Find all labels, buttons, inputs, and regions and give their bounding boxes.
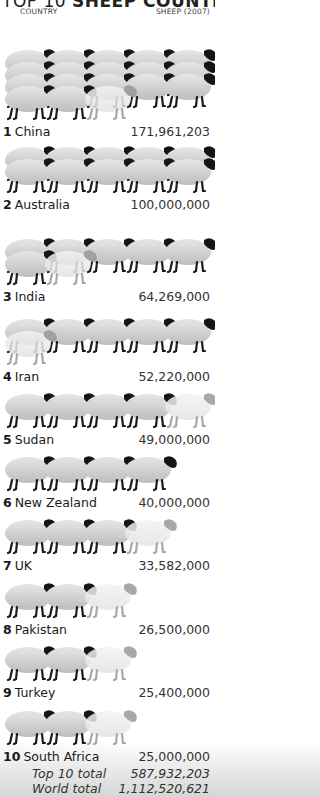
sheep-flock [4, 446, 214, 495]
sheep-flock [4, 572, 214, 622]
sheep-icon [164, 390, 215, 432]
rank-number: 7 [3, 558, 12, 573]
sheep-flock [4, 211, 214, 289]
top10-total-value: 587,932,203 [130, 766, 210, 781]
country-column-header: COUNTRY [20, 7, 58, 16]
sheep-flock [4, 509, 214, 558]
sheep-count-value: 100,000,000 [130, 197, 210, 212]
country-name: South Africa [23, 749, 99, 764]
sheep-count-value: 171,961,203 [130, 124, 210, 139]
rank-number: 9 [3, 685, 12, 700]
country-name: Australia [15, 197, 70, 212]
country-label: 8Pakistan [3, 622, 67, 637]
rank-number: 4 [3, 369, 12, 384]
sheep-count-value: 26,500,000 [138, 622, 210, 637]
sheep-flock [4, 636, 214, 685]
country-name: UK [15, 558, 32, 573]
sheep-flock [4, 303, 214, 369]
top10-total-label: Top 10 total [32, 766, 106, 781]
sheep-flock [4, 699, 214, 749]
sheep-flock [4, 138, 214, 197]
rank-number: 8 [3, 622, 12, 637]
sheep-icon [84, 82, 146, 124]
sheep-count-value: 49,000,000 [138, 432, 210, 447]
rank-number: 3 [3, 289, 12, 304]
sheep-count-value: 33,582,000 [138, 558, 210, 573]
country-label: 1China [3, 124, 50, 139]
world-total-label: World total [32, 781, 101, 796]
sheep-icon [164, 70, 215, 112]
sheep-icon [164, 155, 215, 197]
sheep-count-value: 25,000,000 [138, 749, 210, 764]
country-name: China [15, 124, 51, 139]
rank-number: 5 [3, 432, 12, 447]
sheep-icon [164, 235, 215, 277]
country-name: New Zealand [15, 495, 97, 510]
country-label: 9Turkey [3, 685, 55, 700]
country-label: 2Australia [3, 197, 70, 212]
sheep-icon [4, 327, 66, 369]
rank-number: 1 [3, 124, 12, 139]
country-label: 4Iran [3, 369, 39, 384]
sheep-icon [124, 453, 186, 495]
sheep-count-value: 25,400,000 [138, 685, 210, 700]
sheep-count-value: 52,220,000 [138, 369, 210, 384]
country-name: India [15, 289, 46, 304]
country-name: Pakistan [15, 622, 67, 637]
country-name: Sudan [15, 432, 54, 447]
country-label: 10South Africa [3, 749, 99, 764]
sheep-icon [84, 580, 146, 622]
sheep-icon [84, 707, 146, 749]
rank-number: 2 [3, 197, 12, 212]
sheep-count-value: 40,000,000 [138, 495, 210, 510]
rank-number: 10 [3, 749, 20, 764]
sheep-icon [124, 516, 186, 558]
sheep-flock [4, 20, 214, 124]
sheep-flock [4, 383, 214, 432]
sheep-icon [164, 315, 215, 357]
country-label: 5Sudan [3, 432, 54, 447]
country-label: 3India [3, 289, 45, 304]
sheep-column-header: SHEEP (2007) [156, 7, 210, 16]
country-name: Iran [15, 369, 39, 384]
sheep-icon [44, 247, 106, 289]
rank-number: 6 [3, 495, 12, 510]
world-total-value: 1,112,520,621 [119, 781, 210, 796]
sheep-count-value: 64,269,000 [138, 289, 210, 304]
sheep-icon [84, 643, 146, 685]
country-label: 7UK [3, 558, 32, 573]
country-name: Turkey [15, 685, 56, 700]
country-label: 6New Zealand [3, 495, 97, 510]
